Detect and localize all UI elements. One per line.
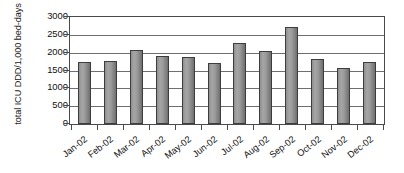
x-axis-tick-label: Oct-02 bbox=[281, 134, 323, 170]
bar bbox=[337, 68, 350, 124]
x-axis-tick-label: Feb-02 bbox=[73, 134, 115, 170]
bar-slot bbox=[227, 17, 253, 124]
bar-slot bbox=[253, 17, 279, 124]
x-axis-tick-label: Dec-02 bbox=[333, 134, 375, 170]
x-axis-tick-mark bbox=[201, 125, 202, 130]
x-axis-tick-mark bbox=[149, 125, 150, 130]
bar-chart: total ICU DDD/1,000 bed-days 30002500200… bbox=[0, 0, 404, 173]
bar bbox=[182, 57, 195, 124]
bar bbox=[285, 27, 298, 124]
x-axis-tick-label: Nov-02 bbox=[307, 134, 349, 170]
x-axis-tick-mark bbox=[175, 125, 176, 130]
x-axis-tick-mark bbox=[227, 125, 228, 130]
x-axis-tick-mark bbox=[123, 125, 124, 130]
x-axis-tick-mark bbox=[305, 125, 306, 130]
x-axis-tick-mark bbox=[331, 125, 332, 130]
x-axis-tick-mark bbox=[357, 125, 358, 130]
x-axis-tick-label: May-02 bbox=[151, 134, 193, 170]
y-axis-tick-label: 1000 bbox=[28, 82, 68, 91]
bar-slot bbox=[330, 17, 356, 124]
bar-slot bbox=[201, 17, 227, 124]
x-axis-tick-label: Mar-02 bbox=[99, 134, 141, 170]
bar bbox=[78, 62, 91, 124]
bar-slot bbox=[149, 17, 175, 124]
bar bbox=[130, 50, 143, 124]
bar-slot bbox=[98, 17, 124, 124]
y-axis-tick-label: 2000 bbox=[28, 47, 68, 56]
x-axis-tick-label: Aug-02 bbox=[229, 134, 271, 170]
x-axis-tick-label: Jan-02 bbox=[47, 134, 89, 170]
bar-series bbox=[70, 17, 384, 124]
x-axis-tick-mark bbox=[279, 125, 280, 130]
x-axis-tick-mark bbox=[253, 125, 254, 130]
bar bbox=[363, 62, 376, 124]
x-axis-tick-mark bbox=[71, 125, 72, 130]
bar bbox=[311, 59, 324, 124]
bar bbox=[208, 63, 221, 124]
bar-slot bbox=[124, 17, 150, 124]
bar bbox=[156, 56, 169, 124]
x-axis-tick-label: Jul-02 bbox=[203, 134, 245, 170]
bar-slot bbox=[279, 17, 305, 124]
bar bbox=[259, 51, 272, 124]
x-axis-tick-label: Sep-02 bbox=[255, 134, 297, 170]
x-axis-tick-label: Apr-02 bbox=[125, 134, 167, 170]
bar bbox=[233, 43, 246, 124]
x-axis-tick-mark bbox=[97, 125, 98, 130]
bar-slot bbox=[72, 17, 98, 124]
plot-area bbox=[69, 16, 385, 125]
y-axis-tick-label: 500 bbox=[28, 100, 68, 109]
x-axis-tick-mark bbox=[383, 125, 384, 130]
y-axis-tick-label: 0 bbox=[28, 118, 68, 127]
bar-slot bbox=[175, 17, 201, 124]
y-axis-tick-label: 1500 bbox=[28, 65, 68, 74]
bar bbox=[104, 61, 117, 124]
y-axis-title: total ICU DDD/1,000 bed-days bbox=[13, 0, 23, 128]
bar-slot bbox=[356, 17, 382, 124]
bar-slot bbox=[304, 17, 330, 124]
x-axis-tick-label: Jun-02 bbox=[177, 134, 219, 170]
y-axis-tick-label: 3000 bbox=[28, 11, 68, 20]
y-axis-tick-label: 2500 bbox=[28, 29, 68, 38]
